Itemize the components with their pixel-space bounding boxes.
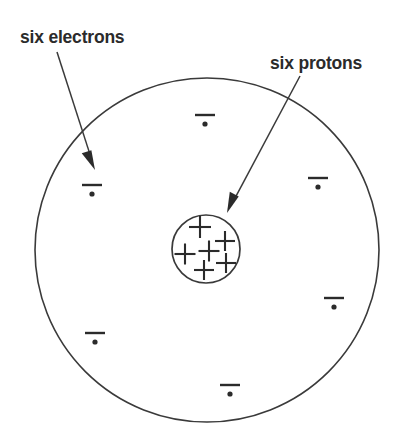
- electron-lower-right: [324, 298, 344, 310]
- electron-upper-right: [308, 178, 328, 190]
- atom-diagram: six electrons six protons: [0, 0, 401, 441]
- electron-dot: [315, 184, 320, 189]
- electron-dot: [89, 191, 94, 196]
- electron-dot: [331, 304, 336, 309]
- electron-dot: [92, 339, 97, 344]
- proton-3: [175, 244, 196, 265]
- nucleus-circle: [172, 215, 240, 283]
- label-six-protons: six protons: [270, 53, 363, 73]
- electron-top: [195, 115, 215, 127]
- label-six-electrons: six electrons: [20, 27, 125, 47]
- electron-dot: [202, 121, 207, 126]
- electron-upper-left: [82, 185, 102, 197]
- atom-diagram-canvas: six electrons six protons: [0, 0, 401, 441]
- protons-annotation-arrow: [227, 76, 300, 213]
- electrons-arrow-head: [82, 150, 95, 170]
- proton-4: [199, 241, 220, 262]
- protons-group: [175, 216, 237, 280]
- electrons-annotation-arrow: [57, 52, 95, 170]
- proton-6: [194, 260, 214, 280]
- proton-2: [215, 231, 235, 251]
- electron-lower-left: [85, 333, 105, 345]
- electron-dot: [227, 391, 232, 396]
- electrons-group: [82, 115, 344, 397]
- protons-arrow-line: [233, 76, 300, 202]
- proton-1: [189, 216, 211, 238]
- electron-bottom: [220, 385, 240, 397]
